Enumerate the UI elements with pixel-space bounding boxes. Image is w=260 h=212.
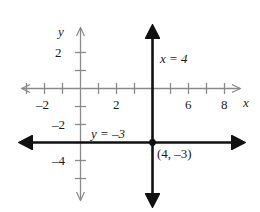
plotted-lines [20,26,244,206]
y-tick-label-neg2: –2 [52,118,65,131]
coordinate-graph-figure: y x 2 –2 –4 –2 2 6 8 x = 4 y = –3 (4, –3… [0,0,260,212]
y-axis-name-label: y [58,25,64,38]
y-tick-label-2: 2 [55,46,62,59]
vertical-line-equation-label: x = 4 [160,52,188,65]
x-tick-label-neg2: –2 [36,98,49,111]
x-tick-label-6: 6 [185,98,192,111]
y-tick-label-neg4: –4 [52,154,65,167]
x-tick-label-2: 2 [113,98,120,111]
intersection-point-marker [149,139,156,146]
x-tick-label-8: 8 [221,98,228,111]
intersection-point-label: (4, –3) [157,147,192,160]
x-axis-name-label: x [243,96,249,109]
horizontal-line-equation-label: y = –3 [91,127,125,140]
